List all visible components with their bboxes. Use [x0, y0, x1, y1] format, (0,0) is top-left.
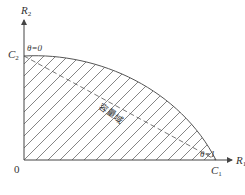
x-axis-label: R1	[236, 155, 245, 168]
c2-intercept-label: C2	[8, 49, 19, 62]
capacity-region-diagram	[0, 0, 245, 195]
theta-dashed-line	[24, 56, 216, 160]
hatch-pattern	[0, 40, 245, 160]
origin-label: 0	[14, 164, 20, 175]
y-axis-label: R2	[21, 5, 31, 18]
c1-intercept-label: C1	[211, 165, 222, 178]
theta-zero-label: θ=0	[27, 44, 42, 53]
theta-one-label: θ=1	[200, 150, 215, 159]
